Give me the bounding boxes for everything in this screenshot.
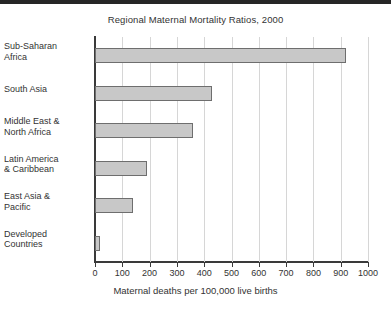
- x-tick-label: 300: [169, 268, 184, 278]
- category-label: DevelopedCountries: [4, 229, 92, 250]
- bar[interactable]: [95, 48, 346, 63]
- x-tick-label: 900: [333, 268, 348, 278]
- top-edge-band: [0, 0, 391, 4]
- category-label-line: East Asia &: [4, 191, 92, 202]
- bar[interactable]: [95, 123, 193, 138]
- x-tick-label: 600: [251, 268, 266, 278]
- x-tick-mark: [341, 263, 342, 267]
- x-tick-mark: [95, 263, 96, 267]
- category-label-line: & Caribbean: [4, 164, 92, 175]
- gridline: [122, 37, 123, 262]
- x-tick-mark: [177, 263, 178, 267]
- x-tick-mark: [122, 263, 123, 267]
- bar[interactable]: [95, 86, 212, 101]
- category-label: Sub-SaharanAfrica: [4, 41, 92, 62]
- x-tick-label: 500: [224, 268, 239, 278]
- x-tick-label: 100: [115, 268, 130, 278]
- x-tick-label: 800: [306, 268, 321, 278]
- gridline: [204, 37, 205, 262]
- plot-area: [95, 37, 368, 262]
- x-tick-mark: [150, 263, 151, 267]
- x-tick-label: 0: [92, 268, 97, 278]
- x-tick-mark: [259, 263, 260, 267]
- category-labels: Sub-SaharanAfricaSouth AsiaMiddle East &…: [4, 37, 92, 262]
- category-label-line: Countries: [4, 239, 92, 250]
- x-axis-title: Maternal deaths per 100,000 live births: [0, 285, 391, 296]
- x-tick-mark: [204, 263, 205, 267]
- category-label: South Asia: [4, 84, 92, 95]
- gridline: [232, 37, 233, 262]
- gridline: [150, 37, 151, 262]
- category-label-line: Developed: [4, 229, 92, 240]
- gridline: [368, 37, 369, 262]
- category-label-line: Sub-Saharan: [4, 41, 92, 52]
- gridline: [341, 37, 342, 262]
- chart-title: Regional Maternal Mortality Ratios, 2000: [0, 14, 391, 25]
- category-label: Middle East &North Africa: [4, 116, 92, 137]
- category-label-line: Pacific: [4, 202, 92, 213]
- gridline: [313, 37, 314, 262]
- gridline: [177, 37, 178, 262]
- x-tick-label: 200: [142, 268, 157, 278]
- x-tick-label: 1000: [358, 268, 378, 278]
- category-label: Latin America& Caribbean: [4, 154, 92, 175]
- gridline: [286, 37, 287, 262]
- x-tick-mark: [313, 263, 314, 267]
- x-tick-mark: [286, 263, 287, 267]
- bar[interactable]: [95, 198, 133, 213]
- category-label-line: Latin America: [4, 154, 92, 165]
- category-label-line: South Asia: [4, 84, 92, 95]
- x-tick-mark: [232, 263, 233, 267]
- x-tick-mark: [368, 263, 369, 267]
- bar[interactable]: [95, 236, 100, 251]
- chart-page: Regional Maternal Mortality Ratios, 2000…: [0, 0, 391, 309]
- category-label-line: North Africa: [4, 127, 92, 138]
- category-label-line: Middle East &: [4, 116, 92, 127]
- gridline: [259, 37, 260, 262]
- x-tick-label: 700: [279, 268, 294, 278]
- category-label-line: Africa: [4, 52, 92, 63]
- x-tick-label: 400: [197, 268, 212, 278]
- category-label: East Asia &Pacific: [4, 191, 92, 212]
- bar[interactable]: [95, 161, 147, 176]
